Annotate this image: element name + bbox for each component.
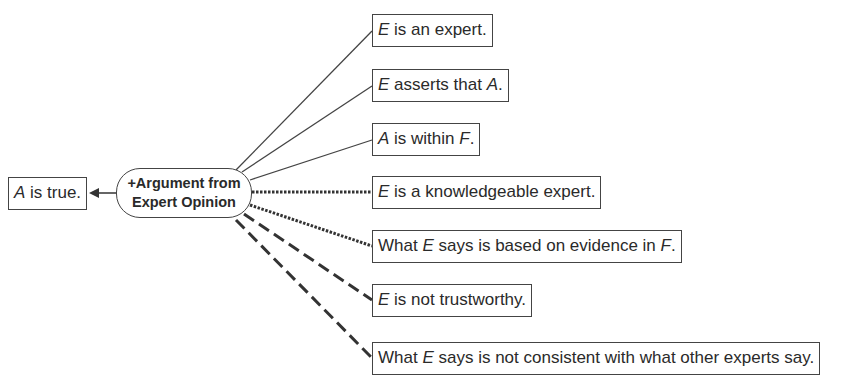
- link-exception-2: [236, 220, 372, 358]
- scheme-title-line2: Expert Opinion: [117, 193, 251, 212]
- premise-text: What: [378, 236, 422, 255]
- conclusion-variable: A: [14, 183, 25, 202]
- variable-text: E: [422, 236, 433, 255]
- premise-text: says is not consistent with what other e…: [434, 348, 814, 367]
- premise-box-1: E is an expert.: [372, 14, 493, 47]
- scheme-title-line1: +Argument from: [117, 174, 251, 193]
- variable-text: F: [459, 129, 469, 148]
- premise-text: is an expert.: [389, 20, 486, 39]
- premise-text: .: [498, 75, 503, 94]
- premise-box-3: A is within F.: [372, 123, 480, 156]
- variable-text: A: [378, 129, 389, 148]
- arrowhead-icon: [89, 188, 99, 198]
- variable-text: A: [487, 75, 498, 94]
- variable-text: E: [422, 348, 433, 367]
- exception-box-2: What E says is not consistent with what …: [372, 342, 820, 375]
- premise-text: is not trustworthy.: [389, 290, 526, 309]
- premise-box-2: E asserts that A.: [372, 69, 509, 102]
- premise-text: says is based on evidence in: [434, 236, 661, 255]
- link-exception-1: [244, 214, 372, 300]
- link-premise-1: [236, 31, 372, 170]
- premise-text: What: [378, 348, 422, 367]
- premise-box-5: What E says is based on evidence in F.: [372, 230, 682, 263]
- conclusion-box: A is true.: [8, 177, 87, 210]
- premise-text: .: [671, 236, 676, 255]
- exception-box-1: E is not trustworthy.: [372, 284, 532, 317]
- variable-text: E: [378, 182, 389, 201]
- argument-scheme-node: +Argument from Expert Opinion: [116, 168, 252, 218]
- variable-text: E: [378, 290, 389, 309]
- link-premise-3: [250, 140, 372, 180]
- premise-text: .: [470, 129, 475, 148]
- variable-text: F: [661, 236, 671, 255]
- variable-text: E: [378, 75, 389, 94]
- premise-text: asserts that: [389, 75, 486, 94]
- premise-text: is a knowledgeable expert.: [389, 182, 595, 201]
- conclusion-text: is true.: [25, 183, 81, 202]
- link-premise-5: [250, 205, 372, 246]
- premise-text: is within: [389, 129, 459, 148]
- link-premise-2: [242, 86, 372, 172]
- premise-box-4: E is a knowledgeable expert.: [372, 176, 601, 209]
- variable-text: E: [378, 20, 389, 39]
